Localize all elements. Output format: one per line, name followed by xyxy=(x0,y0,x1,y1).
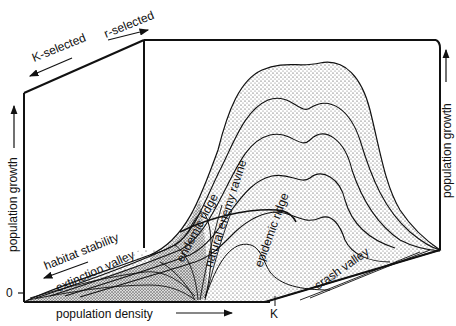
r-selected-label: r-selected xyxy=(102,8,156,41)
left-y-axis-label: population growth xyxy=(6,157,20,252)
right-y-axis-label: population growth xyxy=(440,103,454,198)
k-marker-label: K xyxy=(270,307,278,321)
k-selected-label: K-selected xyxy=(30,31,88,65)
population-landscape-diagram: K-selected r-selected population growth … xyxy=(0,0,456,326)
x-axis-label: population density xyxy=(56,307,153,321)
zero-label: 0 xyxy=(6,286,13,300)
